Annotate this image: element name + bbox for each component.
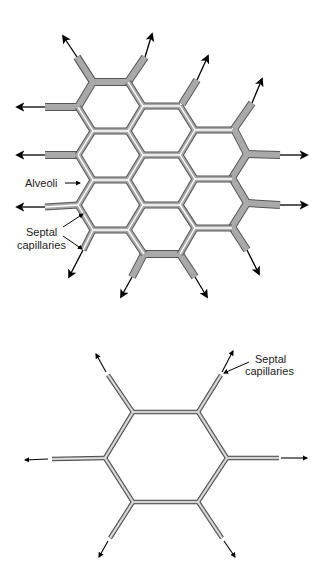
label-septal-line2: capillaries — [245, 365, 294, 377]
alveolar-honeycomb: Alveoli Septal capillaries — [17, 34, 307, 297]
alveoli-septal-capillaries-diagram: Alveoli Septal capillaries — [0, 0, 322, 565]
solid-walls — [45, 57, 280, 277]
label-alveoli: Alveoli — [25, 177, 57, 189]
stretch-arrows — [25, 351, 307, 557]
single-alveolus: Septal capillaries — [25, 351, 307, 557]
label-septal-line2: capillaries — [17, 239, 66, 251]
label-septal-line1: Septal — [255, 353, 286, 365]
septal-capillary-walls — [52, 375, 279, 538]
septal-pointer-1 — [63, 214, 83, 227]
label-septal-line1: Septal — [26, 226, 57, 238]
